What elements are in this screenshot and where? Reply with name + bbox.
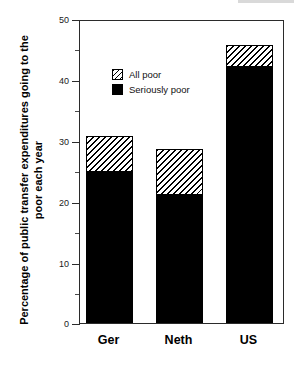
y-tick-label-20: 20 [59, 199, 69, 208]
x-tick-label-neth: Neth [155, 333, 202, 347]
bar-neth-all-poor [156, 149, 203, 195]
x-tick-label-ger: Ger [85, 333, 132, 347]
legend: All poor Seriously poor [112, 68, 190, 98]
y-tick-label-40: 40 [59, 77, 69, 86]
y-axis-title-text: Percentage of public transfer expenditur… [17, 35, 45, 325]
bar-neth-seriously-poor [156, 195, 203, 323]
legend-item-all-poor[interactable]: All poor [112, 68, 190, 81]
hatched-swatch-icon [112, 69, 123, 80]
solid-black-swatch-icon [112, 84, 123, 95]
y-tick-0 [72, 324, 80, 325]
bar-us-all-poor [226, 45, 273, 67]
bar-chart-figure: Percentage of public transfer expenditur… [0, 0, 302, 371]
bar-ger-seriously-poor [86, 172, 133, 323]
y-tick-label-50: 50 [59, 16, 69, 25]
plot-area [79, 20, 284, 324]
bar-ger[interactable] [86, 136, 133, 323]
y-tick-label-10: 10 [59, 260, 69, 269]
scan-artifact [238, 0, 294, 3]
bar-us-seriously-poor [226, 67, 273, 323]
legend-item-seriously-poor[interactable]: Seriously poor [112, 83, 190, 96]
legend-label-all-poor: All poor [129, 69, 161, 81]
bar-us[interactable] [226, 45, 273, 323]
bar-ger-all-poor [86, 136, 133, 172]
y-tick-label-30: 30 [59, 138, 69, 147]
bar-neth[interactable] [156, 149, 203, 323]
legend-label-seriously-poor: Seriously poor [129, 84, 190, 96]
y-axis-title: Percentage of public transfer expenditur… [14, 35, 48, 325]
y-tick-label-0: 0 [64, 320, 69, 329]
x-tick-label-us: US [225, 333, 272, 347]
